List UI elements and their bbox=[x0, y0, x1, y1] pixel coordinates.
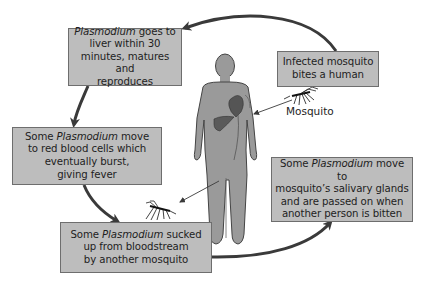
organism-name: Plasmodium bbox=[312, 158, 373, 169]
organism-name: Plasmodium bbox=[102, 229, 163, 240]
arrow-liver-to-rbc bbox=[74, 86, 88, 124]
mosquito-icon bbox=[284, 87, 318, 105]
step-box-red-blood-cells: Some Plasmodium move to red blood cells … bbox=[12, 127, 162, 185]
mosquito-icon bbox=[146, 201, 176, 220]
arrow-sucked-to-salivary bbox=[211, 223, 330, 257]
step-box-sucked-up: Some Plasmodium sucked up from bloodstre… bbox=[60, 222, 212, 273]
organism-name: Plasmodium bbox=[74, 26, 135, 37]
malaria-life-cycle-diagram: Plasmodium goes to liver within 30 minut… bbox=[0, 0, 424, 284]
organism-name: Plasmodium bbox=[57, 131, 118, 142]
arrow-bite-to-liver bbox=[185, 16, 336, 51]
arrow-rbc-to-sucked bbox=[84, 185, 117, 221]
human-body-icon bbox=[194, 54, 256, 244]
step-box-bite: Infected mosquito bites a human bbox=[277, 51, 379, 87]
mosquito-label: Mosquito bbox=[286, 105, 334, 117]
step-box-liver: Plasmodium goes to liver within 30 minut… bbox=[68, 28, 182, 86]
step-box-salivary-glands: Some Plasmodium move to mosquito’s saliv… bbox=[271, 157, 413, 222]
